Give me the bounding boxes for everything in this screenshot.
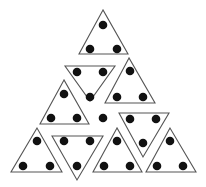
center-dot-icon	[99, 114, 108, 123]
triangle-outline	[11, 128, 62, 172]
dot-icon	[166, 137, 175, 146]
dot-icon	[113, 93, 122, 102]
dot-icon	[113, 137, 122, 146]
dot-icon	[33, 137, 42, 146]
dot-icon	[179, 162, 188, 171]
triangle-down-t7	[52, 136, 103, 180]
dot-icon	[73, 114, 82, 123]
dot-icon	[47, 114, 56, 123]
dot-icon	[86, 137, 95, 146]
dot-icon	[126, 162, 135, 171]
triangle-outline	[52, 136, 103, 180]
triangle-up-t3	[105, 58, 155, 103]
dot-icon	[73, 162, 82, 171]
dot-icon	[99, 21, 108, 30]
triangle-outline	[105, 58, 155, 103]
dot-icon	[60, 90, 69, 99]
dot-icon	[46, 162, 55, 171]
dot-icon	[126, 67, 135, 76]
dot-icon	[153, 162, 162, 171]
triangle-up-t1	[79, 10, 128, 54]
dot-icon	[113, 45, 122, 54]
dot-icon	[152, 115, 161, 124]
dot-icon	[139, 93, 148, 102]
dot-icon	[139, 139, 148, 148]
dot-icon	[126, 115, 135, 124]
dot-icon	[19, 162, 28, 171]
dot-icon	[100, 162, 109, 171]
dot-icon	[99, 68, 108, 77]
triangle-up-t6	[11, 128, 62, 172]
diagram-svg	[0, 0, 206, 187]
dot-icon	[73, 68, 82, 77]
dot-icon	[86, 93, 95, 102]
dot-icon	[86, 45, 95, 54]
dot-icon	[60, 137, 69, 146]
triangle-dot-diagram	[0, 0, 206, 187]
